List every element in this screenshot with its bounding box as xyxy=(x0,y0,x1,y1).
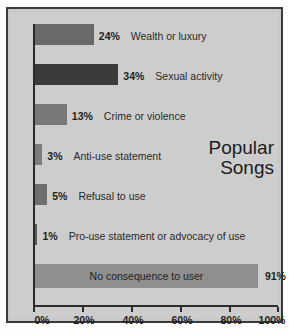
bar-row: 1% Pro-use statement or advocacy of use xyxy=(35,224,278,264)
bar-sexual-activity xyxy=(35,64,118,85)
bar-value-label: 91% xyxy=(265,264,286,288)
bar-category-label: Refusal to use xyxy=(78,190,145,202)
bar-row-text: 3% Anti-use statement xyxy=(47,145,161,166)
bar-refusal-to-use xyxy=(35,184,47,205)
x-axis-tick xyxy=(131,307,133,312)
bar-category-label: No consequence to user xyxy=(35,264,258,288)
x-axis-tick-label: 40% xyxy=(122,314,143,326)
x-axis-tick-label: 60% xyxy=(171,314,192,326)
x-axis-tick xyxy=(180,307,182,312)
bar-value-label: 24% xyxy=(99,30,120,42)
x-axis-tick-label: 20% xyxy=(73,314,94,326)
x-axis-line xyxy=(33,305,278,307)
x-axis-tick xyxy=(82,307,84,312)
x-axis-tick-label: 80% xyxy=(220,314,241,326)
bar-row-text: 34% Sexual activity xyxy=(123,65,222,86)
bar-category-label: Wealth or luxury xyxy=(131,30,207,42)
bar-category-label: Crime or violence xyxy=(104,110,186,122)
plot-background: 24% Wealth or luxury 34% Sexual activity xyxy=(11,12,278,318)
chart-title-line-2: Songs xyxy=(209,158,275,178)
bar-anti-use-statement xyxy=(35,144,42,165)
bar-value-label: 1% xyxy=(42,230,57,242)
chart-figure: 24% Wealth or luxury 34% Sexual activity xyxy=(0,0,289,335)
bar-value-label: 13% xyxy=(72,110,93,122)
bar-category-label: Pro-use statement or advocacy of use xyxy=(69,230,246,242)
x-axis-tick-label: 100% xyxy=(259,314,286,326)
bar-pro-use-statement xyxy=(35,224,37,245)
x-axis-tick xyxy=(229,307,231,312)
bar-row: No consequence to user 91% xyxy=(35,264,278,304)
chart-title-line-1: Popular xyxy=(209,138,275,158)
bar-wealth-or-luxury xyxy=(35,24,94,45)
x-axis-tick xyxy=(277,307,279,312)
x-axis-tick xyxy=(33,307,35,312)
bar-category-label: Sexual activity xyxy=(155,70,222,82)
bar-category-label: Anti-use statement xyxy=(74,150,162,162)
x-axis-tick-label: 0% xyxy=(34,314,49,326)
bar-row-text: 24% Wealth or luxury xyxy=(99,25,207,46)
bar-value-label: 34% xyxy=(123,70,144,82)
chart-title: Popular Songs xyxy=(209,138,275,178)
bar-value-label: 3% xyxy=(47,150,62,162)
bar-row: 5% Refusal to use xyxy=(35,184,278,224)
bar-value-label: 5% xyxy=(52,190,67,202)
bar-row-text: 1% Pro-use statement or advocacy of use xyxy=(42,225,245,246)
bar-crime-or-violence xyxy=(35,104,67,125)
bar-row-text: 5% Refusal to use xyxy=(52,185,145,206)
bar-row: 34% Sexual activity xyxy=(35,64,278,104)
bar-row: 24% Wealth or luxury xyxy=(35,24,278,64)
bar-row-text: 13% Crime or violence xyxy=(72,105,186,126)
chart-frame: 24% Wealth or luxury 34% Sexual activity xyxy=(6,7,283,323)
